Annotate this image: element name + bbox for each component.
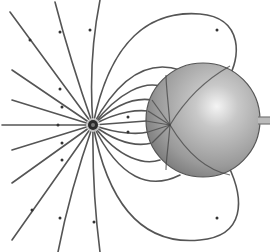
field-line-diagram [0,0,270,252]
radial-field-lines [2,0,100,252]
ground-rod [258,117,270,124]
point-charge [86,118,100,132]
